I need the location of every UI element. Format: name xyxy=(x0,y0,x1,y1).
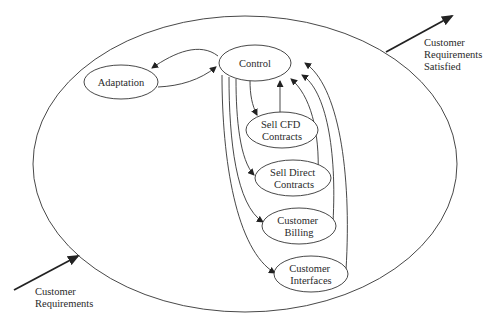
edge-control-to-adaptation xyxy=(152,49,218,68)
edge-control-to-customer-billing xyxy=(229,77,263,222)
edge-adaptation-to-control xyxy=(158,67,216,87)
node-customer-interfaces-label: Customer Interfaces xyxy=(289,263,332,286)
node-adaptation[interactable]: Adaptation xyxy=(84,65,158,99)
diagram-canvas: Customer Requirements Customer Requireme… xyxy=(0,0,490,320)
node-customer-interfaces[interactable]: Customer Interfaces xyxy=(274,256,348,292)
edge-control-to-sell-cfd xyxy=(250,80,257,115)
node-customer-billing[interactable]: Customer Billing xyxy=(262,208,336,244)
node-adaptation-label: Adaptation xyxy=(98,77,145,88)
input-label: Customer Requirements xyxy=(35,286,93,309)
node-control[interactable]: Control xyxy=(219,45,291,81)
node-sell-cfd-contracts[interactable]: Sell CFD Contracts xyxy=(246,112,318,148)
output-label: Customer Requirements Satisfied xyxy=(424,37,485,72)
input-arrow xyxy=(14,256,78,290)
node-sell-direct-label: Sell Direct Contracts xyxy=(270,167,318,190)
node-sell-cfd-label: Sell CFD Contracts xyxy=(261,119,303,142)
node-sell-direct-contracts[interactable]: Sell Direct Contracts xyxy=(255,160,331,196)
node-control-label: Control xyxy=(239,58,271,69)
